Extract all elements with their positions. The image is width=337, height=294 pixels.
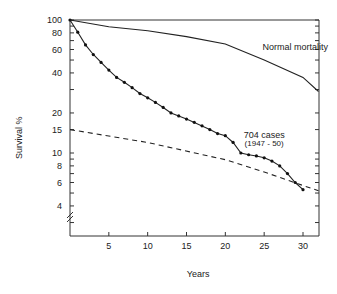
data-point-marker	[247, 153, 250, 156]
x-tick-label: 5	[106, 241, 111, 251]
y-tick-label: 40	[52, 68, 62, 78]
annotation-label: Normal mortality	[262, 42, 328, 52]
data-point-marker	[232, 141, 235, 144]
x-axis-label-text: Years	[187, 269, 210, 279]
data-point-marker	[123, 81, 126, 84]
data-point-marker	[162, 106, 165, 109]
data-point-marker	[107, 69, 110, 72]
data-point-marker	[154, 101, 157, 104]
x-tick-label: 30	[298, 241, 308, 251]
data-point-marker	[301, 188, 304, 191]
plot-frame	[70, 20, 319, 236]
y-tick-label: 8	[57, 161, 62, 171]
y-tick-label: 60	[52, 45, 62, 55]
y-tick-label: 4	[57, 201, 62, 211]
x-tick-label: 10	[143, 241, 153, 251]
y-axis-label-text: Survival %	[14, 117, 24, 160]
data-point-marker	[263, 156, 266, 159]
y-tick-label: 15	[52, 125, 62, 135]
data-point-marker	[115, 76, 118, 79]
data-point-marker	[193, 121, 196, 124]
data-point-marker	[177, 114, 180, 117]
x-tick-label: 15	[181, 241, 191, 251]
annotation-label: (1947 - 50)	[245, 139, 284, 148]
data-point-marker	[185, 117, 188, 120]
series-line-1	[70, 20, 319, 92]
x-tick-label: 25	[259, 241, 269, 251]
y-tick-label: 10	[52, 148, 62, 158]
data-point-marker	[146, 96, 149, 99]
survival-chart: 46810152040608010051015202530 YearsSurvi…	[0, 0, 337, 294]
data-point-marker	[84, 43, 87, 46]
data-point-marker	[92, 53, 95, 56]
y-tick-label: 20	[52, 108, 62, 118]
y-tick-label: 80	[52, 28, 62, 38]
data-point-marker	[76, 31, 79, 34]
data-point-marker	[138, 92, 141, 95]
data-point-marker	[294, 181, 297, 184]
data-point-marker	[169, 111, 172, 114]
data-point-marker	[286, 172, 289, 175]
data-point-marker	[99, 61, 102, 64]
y-tick-label: 6	[57, 178, 62, 188]
y-tick-label: 100	[47, 15, 62, 25]
data-point-marker	[200, 124, 203, 127]
data-point-marker	[224, 134, 227, 137]
data-point-marker	[208, 128, 211, 131]
data-point-marker	[131, 86, 134, 89]
data-point-marker	[216, 132, 219, 135]
data-point-marker	[278, 164, 281, 167]
data-point-marker	[255, 154, 258, 157]
data-point-marker	[270, 159, 273, 162]
data-point-marker	[239, 151, 242, 154]
x-tick-label: 20	[220, 241, 230, 251]
